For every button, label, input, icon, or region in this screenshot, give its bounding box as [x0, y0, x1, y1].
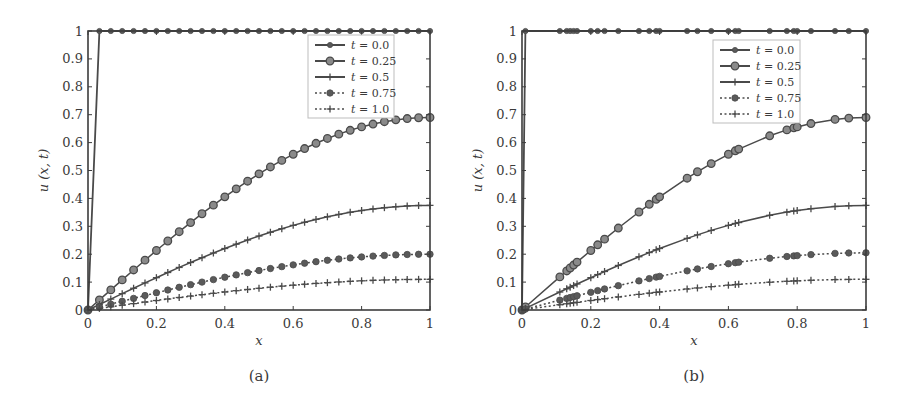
data-marker [694, 231, 701, 238]
series-line [522, 118, 866, 311]
data-marker [708, 263, 714, 269]
data-marker [588, 289, 594, 295]
data-marker [635, 208, 643, 216]
data-marker [198, 210, 206, 218]
data-marker [766, 212, 773, 219]
data-marker [793, 123, 801, 131]
data-marker [636, 278, 642, 284]
y-tick-label: 1 [509, 24, 517, 39]
data-marker [290, 282, 297, 289]
data-marker [290, 262, 296, 268]
data-marker [164, 296, 171, 303]
data-marker [267, 229, 274, 236]
chart-panel-a: 00.20.40.60.8100.10.20.30.40.50.60.70.80… [36, 24, 434, 386]
data-marker [347, 209, 354, 216]
data-marker [221, 288, 228, 295]
x-tick-label: 0.4 [649, 316, 670, 331]
data-marker [615, 282, 621, 288]
data-series-group [518, 28, 870, 313]
data-marker [415, 114, 423, 122]
y-tick-label: 0.1 [496, 275, 517, 290]
data-marker [556, 289, 563, 296]
data-marker [347, 278, 354, 285]
data-marker [707, 160, 715, 168]
data-marker [256, 267, 262, 273]
data-marker [278, 157, 286, 165]
data-marker [684, 285, 691, 292]
data-marker [635, 291, 642, 298]
data-marker [210, 201, 218, 209]
data-marker [694, 168, 702, 176]
series-line [88, 279, 430, 310]
legend-label: t = 0.5 [351, 71, 389, 84]
data-marker [175, 228, 183, 236]
y-tick-label: 0.3 [62, 219, 83, 234]
data-marker [289, 150, 297, 158]
data-marker [301, 145, 309, 153]
data-marker [601, 286, 607, 292]
data-marker [725, 282, 732, 289]
data-marker [684, 235, 691, 242]
legend-marker-icon [731, 62, 739, 70]
data-marker [142, 299, 149, 306]
series-line [88, 205, 430, 310]
data-marker [199, 279, 205, 285]
data-marker [119, 290, 126, 297]
data-marker [210, 276, 216, 282]
x-tick-label: 0.2 [580, 316, 601, 331]
data-marker [358, 277, 365, 284]
data-marker [574, 293, 580, 299]
data-marker [187, 281, 193, 287]
y-tick-label: 0.6 [62, 135, 83, 150]
data-marker [267, 265, 273, 271]
data-marker [199, 254, 206, 261]
data-marker [656, 288, 663, 295]
data-marker [808, 251, 814, 257]
data-marker [381, 276, 388, 283]
data-marker [601, 268, 608, 275]
data-marker [563, 285, 570, 292]
data-marker [556, 273, 564, 281]
panel-caption: (b) [683, 367, 704, 385]
x-tick-label: 0.4 [214, 316, 235, 331]
y-tick-label: 0.7 [62, 107, 83, 122]
legend-marker-icon [327, 42, 332, 47]
data-marker [573, 258, 581, 266]
data-marker [164, 237, 172, 245]
x-axis-label: x [690, 333, 698, 348]
data-marker [601, 235, 609, 243]
legend: t = 0.0t = 0.25t = 0.5t = 0.75t = 1.0 [308, 35, 396, 118]
data-marker [221, 193, 229, 201]
data-marker [587, 274, 594, 281]
y-tick-label: 0.2 [496, 247, 517, 262]
data-marker [324, 213, 331, 220]
figure-canvas: 00.20.40.60.8100.10.20.30.40.50.60.70.80… [0, 0, 904, 412]
data-marker [735, 281, 742, 288]
data-marker [845, 202, 852, 209]
data-marker [267, 163, 275, 171]
data-marker [732, 220, 739, 227]
data-marker [404, 251, 410, 257]
y-tick-label: 0.4 [62, 191, 83, 206]
data-marker [358, 123, 366, 131]
y-tick-label: 0.5 [496, 163, 517, 178]
x-tick-label: 1 [862, 316, 870, 331]
data-marker [313, 280, 320, 287]
x-tick-label: 1 [426, 316, 434, 331]
data-marker [336, 256, 342, 262]
data-marker [415, 276, 422, 283]
data-marker [153, 290, 159, 296]
data-marker [807, 277, 814, 284]
y-tick-label: 0.9 [62, 51, 83, 66]
data-marker [653, 246, 660, 253]
data-marker [335, 211, 342, 218]
data-marker [784, 253, 790, 259]
data-marker [335, 278, 342, 285]
data-marker [256, 285, 263, 292]
data-marker [615, 224, 623, 232]
data-marker [232, 185, 240, 193]
data-marker [831, 116, 839, 124]
series-t-0-25 [84, 114, 434, 314]
data-marker [694, 266, 700, 272]
data-marker [794, 277, 801, 284]
